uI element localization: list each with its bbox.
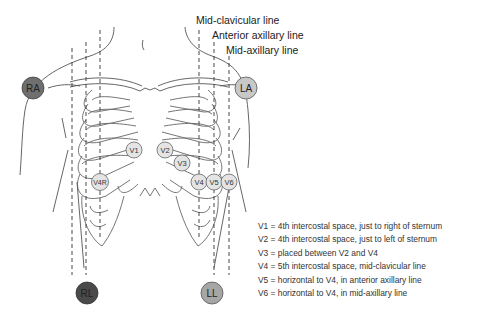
reference-lines (72, 30, 229, 275)
electrode-v4r: V4R (92, 174, 109, 191)
electrode-v6: V6 (221, 174, 237, 190)
electrode-ll: LL (201, 282, 223, 304)
electrode-v4: V4 (191, 174, 207, 190)
svg-text:V4R: V4R (93, 179, 107, 186)
clavicles (70, 78, 228, 91)
electrode-v2: V2 (157, 142, 173, 158)
legend-item-v1: V1 = 4th intercostal space, just to righ… (258, 220, 442, 233)
electrode-rl: RL (76, 282, 98, 304)
legend-item-v5: V5 = horizontal to V4, in anterior axill… (258, 274, 442, 287)
svg-text:RL: RL (81, 288, 94, 299)
electrode-v5: V5 (206, 174, 222, 190)
legend-item-v6: V6 = horizontal to V4, in mid-axillary l… (258, 287, 442, 300)
svg-text:V1: V1 (129, 146, 138, 155)
svg-text:V6: V6 (224, 178, 233, 187)
svg-text:LA: LA (240, 83, 253, 94)
svg-text:V2: V2 (160, 146, 169, 155)
rib-cage (78, 90, 223, 246)
legend-item-v4: V4 = 5th intercostal space, mid-clavicul… (258, 260, 442, 273)
mid-clavicular-line-label: Mid-clavicular line (196, 14, 279, 26)
anterior-axillary-line-label: Anterior axillary line (212, 29, 304, 41)
svg-text:RA: RA (26, 83, 40, 94)
svg-text:V5: V5 (209, 178, 218, 187)
svg-text:V4: V4 (194, 178, 203, 187)
electrode-la: LA (235, 77, 257, 99)
electrode-v1: V1 (126, 142, 142, 158)
mid-axillary-line-label: Mid-axillary line (226, 44, 298, 56)
electrode-v3: V3 (174, 155, 190, 171)
svg-text:LL: LL (206, 288, 218, 299)
svg-text:V3: V3 (177, 159, 186, 168)
legend-item-v2: V2 = 4th intercostal space, just to left… (258, 233, 442, 246)
legend-item-v3: V3 = placed between V2 and V4 (258, 247, 442, 260)
lead-placement-legend: V1 = 4th intercostal space, just to righ… (258, 220, 442, 300)
electrode-ra: RA (22, 77, 44, 99)
